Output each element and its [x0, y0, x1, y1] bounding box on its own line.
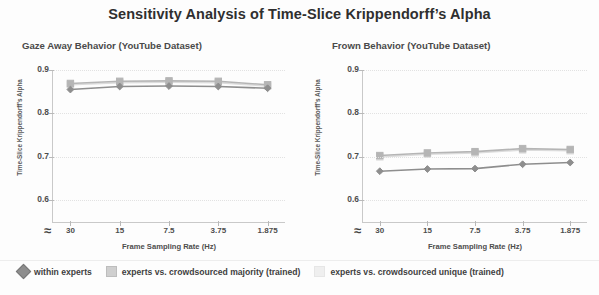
y-tick-label: 0.7 [27, 151, 49, 161]
x-tick-group-right: 30157.53.751.875 [363, 226, 587, 240]
diamond-marker-icon [16, 264, 32, 280]
gridline [53, 200, 285, 201]
y-tick-mark [359, 200, 364, 201]
axis-break-icon-right: ≈ [354, 224, 361, 237]
legend-item[interactable]: experts vs. crowdsourced unique (trained… [314, 266, 503, 277]
legend-item[interactable]: experts vs. crowdsourced majority (train… [106, 266, 301, 277]
y-tick-label: 0.6 [27, 194, 49, 204]
figure-title: Sensitivity Analysis of Time-Slice Kripp… [0, 6, 599, 22]
legend-label: experts vs. crowdsourced majority (train… [122, 267, 301, 277]
y-tick-mark [49, 70, 54, 71]
x-axis-label-left: Frame Sampling Rate (Hz) [53, 242, 285, 251]
x-tick-label: 30 [375, 226, 384, 235]
series-layer [363, 70, 587, 222]
data-point-marker [424, 150, 430, 156]
axis-break-icon-left: ≈ [44, 224, 51, 237]
panel-title-gaze-away: Gaze Away Behavior (YouTube Dataset) [6, 40, 314, 51]
square-marker-icon [314, 266, 325, 277]
y-tick-label: 0.9 [337, 64, 359, 74]
data-point-marker [376, 168, 383, 175]
x-tick-label: 30 [66, 226, 75, 235]
series-layer [53, 70, 285, 222]
y-tick-label: 0.8 [337, 107, 359, 117]
legend-divider [0, 260, 599, 261]
x-tick-label: 3.75 [211, 226, 227, 235]
gridline [363, 113, 587, 114]
chart-legend: within expertsexperts vs. crowdsourced m… [0, 266, 599, 277]
plot-area-frown: ≈ 30157.53.751.875 Frame Sampling Rate (… [362, 70, 587, 223]
x-axis-label-right: Frame Sampling Rate (Hz) [363, 242, 587, 251]
data-point-marker [567, 159, 574, 166]
y-tick-label: 0.6 [337, 194, 359, 204]
x-tick-group-left: 30157.53.751.875 [53, 226, 285, 240]
panel-title-frown: Frown Behavior (YouTube Dataset) [300, 40, 599, 51]
data-point-marker [519, 145, 525, 151]
plot-area-gaze-away: ≈ 30157.53.751.875 Frame Sampling Rate (… [52, 70, 285, 223]
y-tick-mark [359, 113, 364, 114]
panel-gaze-away: Gaze Away Behavior (YouTube Dataset) Tim… [6, 40, 298, 260]
x-tick-label: 1.875 [560, 226, 580, 235]
legend-label: experts vs. crowdsourced unique (trained… [330, 267, 503, 277]
x-tick-label: 7.5 [469, 226, 480, 235]
square-marker-icon [106, 266, 117, 277]
legend-label: within experts [34, 267, 92, 277]
gridline [363, 200, 587, 201]
y-tick-label: 0.7 [337, 151, 359, 161]
y-tick-label: 0.8 [27, 107, 49, 117]
x-tick-label: 7.5 [163, 226, 174, 235]
figure-canvas: Sensitivity Analysis of Time-Slice Kripp… [0, 0, 599, 295]
gridline [53, 157, 285, 158]
x-tick-label: 15 [423, 226, 432, 235]
legend-item[interactable]: within experts [18, 266, 92, 277]
y-tick-label: 0.9 [27, 64, 49, 74]
data-point-marker [424, 166, 431, 173]
x-tick-label: 15 [115, 226, 124, 235]
y-tick-mark [49, 113, 54, 114]
x-tick-label: 3.75 [515, 226, 531, 235]
gridline [53, 70, 285, 71]
gridline [363, 157, 587, 158]
panel-frown: Frown Behavior (YouTube Dataset) Time-Sl… [300, 40, 595, 260]
y-tick-mark [49, 157, 54, 158]
y-tick-mark [359, 70, 364, 71]
y-axis-label-left: Time-Slice Krippendorff's Alpha [16, 63, 23, 193]
y-tick-mark [49, 200, 54, 201]
y-tick-mark [359, 157, 364, 158]
data-point-marker [472, 148, 478, 154]
x-tick-label: 1.875 [258, 226, 278, 235]
y-axis-label-right: Time-Slice Krippendorff's Alpha [314, 63, 321, 193]
data-point-marker [567, 146, 573, 152]
data-point-marker [519, 161, 526, 168]
gridline [53, 113, 285, 114]
gridline [363, 70, 587, 71]
data-point-marker [472, 165, 479, 172]
